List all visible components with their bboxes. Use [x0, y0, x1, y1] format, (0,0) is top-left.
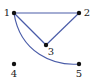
node-label-3: 3 — [48, 46, 54, 57]
node-label-2: 2 — [84, 7, 90, 18]
node-1 — [12, 11, 16, 15]
node-label-5: 5 — [76, 68, 82, 79]
edge-2-3 — [46, 13, 79, 45]
nodes: 12345 — [4, 7, 90, 79]
edges — [14, 13, 79, 64]
node-label-4: 4 — [11, 68, 17, 79]
node-5 — [77, 62, 81, 66]
graph-diagram: 12345 — [0, 0, 93, 83]
node-2 — [77, 11, 81, 15]
node-label-1: 1 — [4, 7, 10, 18]
edge-1-5 — [14, 13, 79, 64]
node-4 — [12, 62, 16, 66]
